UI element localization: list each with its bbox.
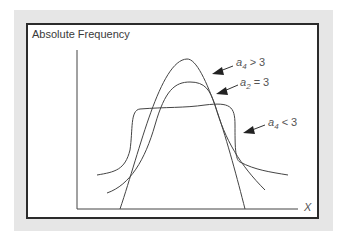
- label-mesokurtic: a2 = 3: [240, 76, 269, 91]
- x-axis-title: X: [304, 201, 311, 213]
- curve-leptokurtic: [120, 59, 245, 209]
- label-rel: < 3: [279, 116, 298, 128]
- arrow-mesokurtic: [216, 85, 238, 95]
- label-rel: > 3: [247, 56, 266, 68]
- arrow-platykurtic: [243, 125, 265, 134]
- label-platykurtic: a4 < 3: [268, 116, 297, 131]
- label-rel: = 3: [251, 76, 270, 88]
- curve-mesokurtic: [107, 82, 265, 193]
- label-leptokurtic: a4 > 3: [236, 56, 265, 71]
- curve-platykurtic: [97, 104, 288, 175]
- arrow-leptokurtic: [212, 66, 233, 75]
